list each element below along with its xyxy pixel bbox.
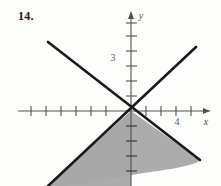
y-tick-label-3: 3 <box>111 52 116 63</box>
y-axis-label: y <box>138 10 144 21</box>
y-axis-arrow <box>128 11 134 19</box>
x-axis-label: x <box>203 116 209 127</box>
x-tick-label-4: 4 <box>175 116 180 127</box>
graph-figure: 3 4 y x <box>0 0 221 186</box>
x-axis-arrow <box>203 108 210 114</box>
